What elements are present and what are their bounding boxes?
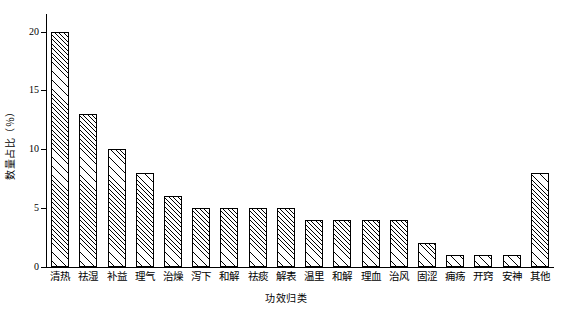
x-axis-tick-label: 温里	[300, 270, 328, 284]
x-axis-tick-label: 解表	[272, 270, 300, 284]
y-axis-tick-label: 10	[29, 142, 39, 155]
bar	[418, 243, 436, 267]
bar	[531, 173, 549, 267]
bar	[192, 208, 210, 267]
x-axis-tick-label: 和解	[215, 270, 243, 284]
y-axis-tick-label: 5	[34, 201, 39, 214]
x-axis-tick-label: 理血	[356, 270, 384, 284]
bar	[333, 220, 351, 267]
bar	[220, 208, 238, 267]
y-axis-tick-label: 15	[29, 83, 39, 96]
x-axis-tick-label: 清热	[46, 270, 74, 284]
bar	[474, 255, 492, 267]
x-axis-tick-label: 泻下	[187, 270, 215, 284]
y-axis-title: 数量占比（％）	[2, 88, 17, 198]
y-axis-tick-label: 20	[29, 25, 39, 38]
bar	[305, 220, 323, 267]
bar-series	[46, 14, 554, 268]
x-axis-tick-label: 治燥	[159, 270, 187, 284]
x-axis-tick-label: 痈疡	[441, 270, 469, 284]
x-axis-tick-labels: 清热祛湿补益理气治燥泻下和解祛痰解表温里和解理血治风固涩痈疡开窍安神其他	[46, 270, 554, 292]
x-axis-tick-label: 其他	[526, 270, 554, 284]
x-axis-tick-label: 祛痰	[244, 270, 272, 284]
bar	[277, 208, 295, 267]
bar	[51, 32, 69, 267]
bar	[79, 114, 97, 267]
bar	[390, 220, 408, 267]
x-axis-tick-label: 理气	[131, 270, 159, 284]
x-axis-tick-label: 和解	[328, 270, 356, 284]
x-axis-tick-label: 开窍	[469, 270, 497, 284]
bar	[249, 208, 267, 267]
bar	[362, 220, 380, 267]
bar-chart: 数量占比（％） 05101520 清热祛湿补益理气治燥泻下和解祛痰解表温里和解理…	[0, 0, 572, 327]
bar	[503, 255, 521, 267]
plot-area: 05101520	[46, 14, 554, 268]
y-axis-tick-label: 0	[34, 260, 39, 273]
x-axis-tick-label: 祛湿	[74, 270, 102, 284]
x-axis-tick-label: 固涩	[413, 270, 441, 284]
x-axis-tick-label: 补益	[102, 270, 130, 284]
x-axis-tick-label: 安神	[498, 270, 526, 284]
x-axis-tick-label: 治风	[385, 270, 413, 284]
bar	[446, 255, 464, 267]
x-axis-title: 功效归类	[0, 290, 572, 305]
bar	[108, 149, 126, 267]
bar	[164, 196, 182, 267]
bar	[136, 173, 154, 267]
